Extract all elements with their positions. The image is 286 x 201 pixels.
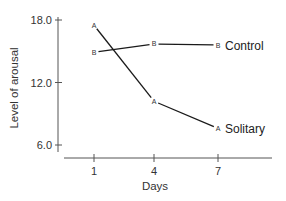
x-tick-label: 4 xyxy=(151,165,157,177)
x-ticks: 147 xyxy=(91,154,221,177)
data-point-marker: B xyxy=(92,49,97,56)
series-line-segment xyxy=(98,45,149,52)
x-tick-label: 7 xyxy=(215,165,221,177)
y-tick-label: 6.0 xyxy=(37,139,52,151)
y-ticks: 18.012.06.0 xyxy=(31,14,62,151)
series-control: BBBControl xyxy=(92,39,264,56)
y-tick-label: 18.0 xyxy=(31,14,52,26)
line-chart: 18.012.06.0 147 Days Level of arousal BB… xyxy=(0,0,286,201)
data-point-marker: A xyxy=(152,98,157,105)
series-label: Solitary xyxy=(225,122,265,136)
y-axis-title: Level of arousal xyxy=(8,47,20,128)
x-axis-title: Days xyxy=(142,180,168,192)
data-point-marker: A xyxy=(92,22,97,29)
series-label: Control xyxy=(225,39,264,53)
series-line-segment xyxy=(158,44,213,45)
series-layer: BBBControlAAASolitary xyxy=(92,22,265,136)
series-line-segment xyxy=(158,103,214,127)
x-tick-label: 1 xyxy=(91,165,97,177)
y-tick-label: 12.0 xyxy=(31,77,52,89)
data-point-marker: B xyxy=(152,40,157,47)
series-line-segment xyxy=(97,29,151,98)
data-point-marker: A xyxy=(216,125,221,132)
data-point-marker: B xyxy=(216,42,221,49)
